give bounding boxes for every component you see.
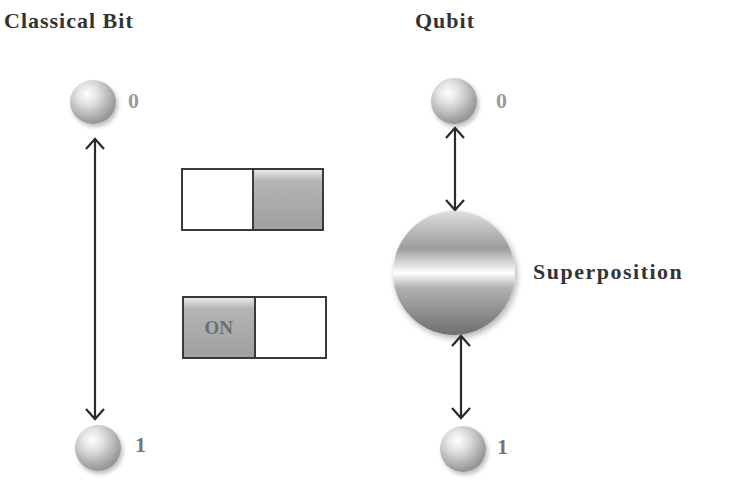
qubit-one-sphere (440, 426, 486, 472)
qubit-zero-label: 0 (496, 88, 507, 114)
classical-zero-sphere (70, 80, 116, 124)
classical-bit-title: Classical Bit (4, 8, 134, 34)
classical-one-sphere (75, 425, 121, 471)
qubit-one-label: 1 (497, 434, 508, 460)
superposition-sphere (393, 211, 515, 335)
qubit-zero-sphere (431, 78, 477, 124)
qubit-title: Qubit (415, 8, 475, 34)
qubit-bottom-arrow (446, 332, 476, 422)
classical-zero-label: 0 (128, 88, 139, 114)
off-switch-blank-half (183, 170, 252, 229)
classical-bidirectional-arrow (80, 135, 110, 425)
qubit-top-arrow (440, 124, 470, 214)
classical-one-label: 1 (135, 432, 146, 458)
superposition-label: Superposition (533, 259, 683, 285)
on-switch-label: ON (184, 298, 254, 357)
on-switch: ON (182, 296, 327, 359)
on-switch-blank-half (254, 298, 326, 357)
off-switch-label: OFF (252, 170, 323, 229)
off-switch: OFF (181, 168, 324, 231)
